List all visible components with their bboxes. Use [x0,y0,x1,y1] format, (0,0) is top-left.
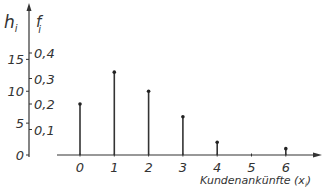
stem-dot [181,115,185,119]
stem-dot [147,89,151,93]
x-tick-label: 0 [76,160,84,175]
right-tick-label: 0,4 [34,46,55,61]
x-axis-ticks: 0123456 [76,154,290,176]
right-tick-label: 0,3 [34,72,55,87]
stem-dot [215,140,219,144]
x-axis-title: Kundenankünfte (xi) [200,174,311,189]
stem-dot [113,70,117,74]
y-axis-arrow-icon [27,3,32,11]
frequency-stem-chart: 051015 0,10,20,30,4 0123456 hi fi Kunden… [0,0,323,191]
left-tick-label: 15 [7,52,24,67]
x-tick-label: 6 [282,160,290,175]
left-tick-label: 10 [7,84,24,99]
stem-dot [284,147,288,151]
x-tick-label: 5 [247,160,255,175]
right-tick-label: 0,2 [34,97,55,112]
left-tick-label: 5 [16,116,24,131]
right-axis-ticks: 0,10,20,30,4 [29,46,55,138]
x-tick-label: 4 [213,160,221,175]
left-axis-ticks: 051015 [7,52,29,163]
x-tick-label: 2 [144,160,152,175]
right-axis-title: fi [36,13,44,35]
x-axis-arrow-icon [313,153,322,158]
stem-dot [78,102,82,106]
x-tick-label: 3 [179,160,187,175]
x-tick-label: 1 [110,160,118,175]
left-tick-label: 0 [16,148,24,163]
stems [78,70,287,155]
left-axis-title: hi [4,12,18,34]
right-tick-label: 0,1 [34,123,55,138]
